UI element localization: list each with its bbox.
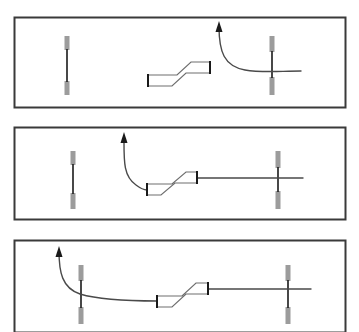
- offset-connector: [157, 283, 208, 307]
- left-marker-post: [71, 151, 76, 209]
- panel-3: [15, 241, 346, 332]
- guidewire-path: [219, 26, 301, 72]
- post-cap-bottom: [65, 81, 70, 95]
- post-cap-top: [79, 265, 84, 281]
- post-cap-bottom: [79, 307, 84, 324]
- panel-2: [15, 128, 346, 220]
- guidewire-arrowhead-icon: [216, 21, 223, 32]
- post-cap-bottom: [71, 193, 76, 209]
- sequence-illustration-canvas: [0, 0, 359, 332]
- post-cap-bottom: [276, 191, 281, 209]
- guidewire-arrowhead-icon: [121, 132, 128, 143]
- post-cap-top: [276, 151, 281, 168]
- post-cap-top: [71, 151, 76, 165]
- panel-frame: [15, 241, 346, 332]
- panel-frame: [15, 18, 346, 108]
- post-cap-top: [270, 36, 275, 52]
- post-cap-top: [286, 265, 291, 281]
- right-marker-post: [286, 265, 291, 324]
- post-cap-top: [65, 36, 70, 50]
- left-marker-post: [65, 36, 70, 95]
- offset-connector: [147, 172, 197, 195]
- right-marker-post: [270, 36, 275, 95]
- panel-frame: [15, 128, 346, 220]
- post-cap-bottom: [286, 307, 291, 324]
- post-cap-bottom: [270, 77, 275, 95]
- offset-connector: [148, 62, 210, 86]
- figure-root: [0, 0, 359, 332]
- right-marker-post: [276, 151, 281, 209]
- guidewire-arrowhead-icon: [56, 246, 63, 257]
- panel-1: [15, 18, 346, 108]
